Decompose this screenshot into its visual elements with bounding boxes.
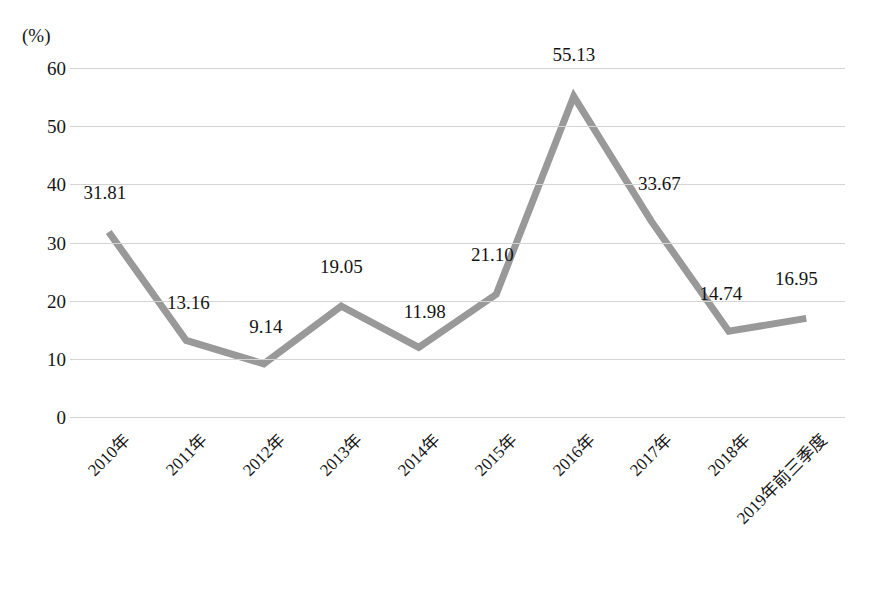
line-chart: (%) 6050403020100 2010年2011年2012年2013年20… xyxy=(0,0,872,589)
data-point-label: 31.81 xyxy=(83,182,126,201)
x-axis-tick-label: 2010年 xyxy=(85,431,133,479)
data-point-label: 55.13 xyxy=(552,45,595,64)
data-point-label: 9.14 xyxy=(249,316,282,335)
data-point-label: 19.05 xyxy=(320,257,363,276)
data-point-label: 13.16 xyxy=(167,293,210,312)
x-axis-tick-label: 2011年 xyxy=(163,431,211,479)
x-axis-tick-label: 2015年 xyxy=(472,431,520,479)
x-axis-tick-label: 2017年 xyxy=(627,431,675,479)
data-point-label: 21.10 xyxy=(471,245,514,264)
x-axis-tick-label: 2014年 xyxy=(395,431,443,479)
data-point-label: 33.67 xyxy=(638,174,681,193)
data-point-label: 14.74 xyxy=(699,284,742,303)
x-axis-tick-label: 2012年 xyxy=(240,431,288,479)
data-point-label: 16.95 xyxy=(775,269,818,288)
data-point-label: 11.98 xyxy=(404,302,446,321)
x-axis-tick-label: 2016年 xyxy=(550,431,598,479)
x-axis-tick-label: 2018年 xyxy=(705,431,753,479)
x-axis-tick-label: 2013年 xyxy=(317,431,365,479)
